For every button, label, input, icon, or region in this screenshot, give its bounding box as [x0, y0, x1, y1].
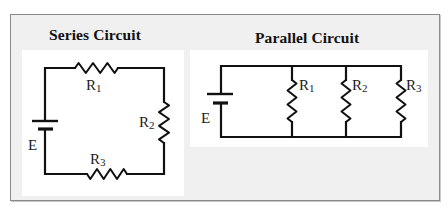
series-resistor-r3-icon [87, 169, 127, 179]
series-wire-top-right [118, 68, 164, 102]
series-label-r1: R1 [86, 77, 102, 94]
parallel-wire-bottom [221, 103, 401, 137]
series-wire-right-bottom [127, 143, 164, 174]
parallel-circuit: R1 R2 R3 E [201, 66, 422, 137]
parallel-resistor-r3-icon [397, 80, 406, 122]
parallel-label-r3: R3 [406, 77, 422, 94]
series-circuit: R1 R2 R3 E [28, 63, 169, 179]
series-wire-top-left [45, 68, 75, 121]
parallel-resistor-r2-icon [342, 80, 351, 122]
series-label-e: E [28, 137, 37, 153]
parallel-resistor-r1-icon [288, 80, 297, 122]
series-resistor-r1-icon [75, 63, 118, 73]
series-label-r2: R2 [139, 114, 155, 131]
circuit-drawing: R1 R2 R3 E R1 R2 R3 E [0, 0, 448, 215]
series-wire-bottom-left [45, 129, 87, 174]
parallel-label-r1: R1 [299, 77, 315, 94]
parallel-label-e: E [201, 110, 210, 126]
series-label-r3: R3 [90, 151, 106, 168]
series-battery-icon [32, 121, 58, 129]
parallel-battery-icon [207, 94, 233, 103]
series-resistor-r2-icon [159, 102, 169, 143]
parallel-label-r2: R2 [352, 77, 368, 94]
